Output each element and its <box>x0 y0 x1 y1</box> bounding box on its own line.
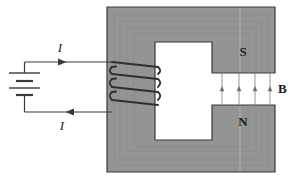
diagram-canvas: I I S N B <box>0 0 293 181</box>
field-arrowhead-group <box>220 86 273 91</box>
coil-turn-back <box>158 92 160 100</box>
current-arrowheads <box>58 59 74 116</box>
battery-symbol <box>9 62 40 112</box>
field-arrowhead <box>220 86 225 91</box>
field-label-b: B <box>278 81 287 96</box>
field-line-group <box>222 73 270 105</box>
current-arrow-bottom <box>66 109 75 116</box>
current-arrow-top <box>58 59 67 66</box>
current-label-top: I <box>57 40 63 55</box>
pole-label-south: S <box>239 44 246 59</box>
coil-left-stub <box>112 92 116 93</box>
pole-label-north: N <box>238 114 248 129</box>
coil-left-stub <box>112 67 116 68</box>
air-gap-field <box>220 73 273 105</box>
field-arrowhead <box>237 86 242 91</box>
circuit-wires <box>25 62 113 112</box>
coil-left-stub <box>112 79 116 80</box>
coil-turn-back <box>158 79 160 87</box>
current-label-bottom: I <box>59 118 65 133</box>
coil-turn-back <box>158 67 160 74</box>
field-arrowhead <box>253 86 258 91</box>
field-arrowhead <box>268 86 273 91</box>
